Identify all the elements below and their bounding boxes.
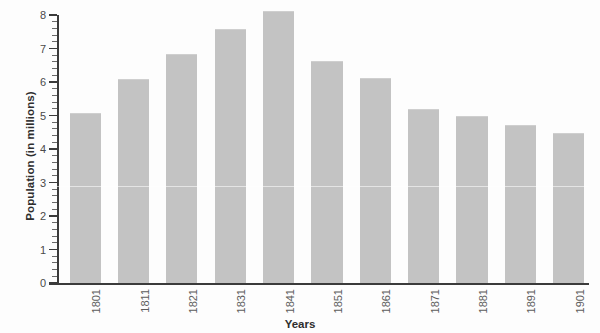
x-tick-label: 1831: [235, 289, 247, 313]
y-tick-major: [49, 48, 57, 49]
x-tick-label: 1881: [477, 289, 489, 313]
bar-series: [57, 15, 589, 283]
y-tick-major: [49, 282, 57, 283]
x-tick-label: 1891: [525, 289, 537, 313]
bar-chart: Population (in millions) 012345678 18011…: [0, 0, 600, 333]
y-axis-title: Population (in millions): [24, 46, 36, 266]
bar: [456, 116, 487, 283]
x-tick-label: 1821: [187, 289, 199, 313]
x-tick-label: 1841: [284, 289, 296, 313]
y-tick-major: [49, 14, 57, 15]
y-tick-major: [49, 215, 57, 216]
y-tick-label: 6: [40, 76, 46, 88]
bar: [360, 78, 391, 283]
y-tick-major: [49, 249, 57, 250]
y-tick-label: 7: [40, 43, 46, 55]
bar: [408, 109, 439, 283]
bar: [311, 61, 342, 283]
y-tick-label: 2: [40, 210, 46, 222]
y-tick-major: [49, 148, 57, 149]
x-tick-label: 1851: [332, 289, 344, 313]
y-tick-label: 0: [40, 277, 46, 289]
bar: [118, 79, 149, 283]
y-tick-major: [49, 115, 57, 116]
y-tick-major: [49, 81, 57, 82]
bar: [215, 29, 246, 283]
x-tick-label: 1811: [139, 289, 151, 313]
y-tick-label: 5: [40, 110, 46, 122]
bar: [553, 133, 584, 283]
y-tick-label: 3: [40, 177, 46, 189]
x-axis-line: [49, 283, 589, 285]
x-tick-label: 1901: [574, 289, 586, 313]
bar: [263, 11, 294, 283]
bar: [505, 125, 536, 283]
x-tick-label: 1871: [429, 289, 441, 313]
x-axis-title: Years: [0, 318, 600, 330]
y-tick-major: [49, 182, 57, 183]
y-tick-label: 1: [40, 244, 46, 256]
bar: [70, 113, 101, 283]
bar: [166, 54, 197, 283]
x-tick-label: 1861: [380, 289, 392, 313]
y-tick-label: 8: [40, 9, 46, 21]
plot-area: 012345678 180118111821183118411851186118…: [57, 15, 589, 283]
x-tick-label: 1801: [90, 289, 102, 313]
y-tick-label: 4: [40, 143, 46, 155]
